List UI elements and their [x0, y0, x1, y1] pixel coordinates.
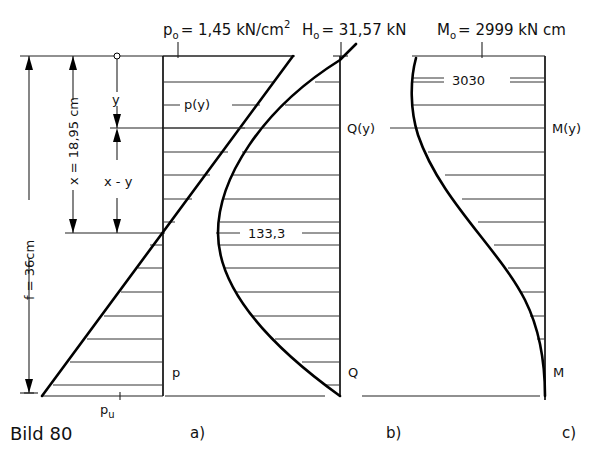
panel-c-label: c) [562, 424, 576, 442]
header-m0: Mo= 2999 kN cm [437, 21, 566, 41]
svg-text:Ho= 31,57 kN: Ho= 31,57 kN [302, 21, 406, 41]
dimension-x-minus-y: x - y [104, 174, 133, 189]
pu-label: pu [100, 402, 115, 420]
panel-c-moment [390, 56, 545, 400]
p-end-label: p [172, 365, 180, 380]
header-h0: Ho= 31,57 kN [302, 21, 406, 41]
q-end-label: Q [348, 365, 358, 380]
svg-text:Mo= 2999 kN cm: Mo= 2999 kN cm [437, 21, 566, 41]
panel-b-shear [165, 44, 540, 397]
svg-text:po= 1,45 kN/cm2: po= 1,45 kN/cm2 [163, 19, 290, 41]
m-end-label: M [553, 365, 564, 380]
dimension-f: f = 36cm [22, 240, 37, 300]
dimension-y: y [112, 92, 120, 107]
dimension-x: x = 18,95 cm [66, 97, 81, 185]
structural-diagram: po= 1,45 kN/cm2 Ho= 31,57 kN Mo= 2999 kN… [0, 0, 603, 458]
q-annotation: 133,3 [248, 226, 285, 241]
panel-b-label: b) [386, 424, 401, 442]
m-y-label: M(y) [552, 121, 581, 136]
header-p0: po= 1,45 kN/cm2 [163, 19, 290, 41]
panel-a-label: a) [190, 424, 205, 442]
p-y-label: p(y) [184, 97, 210, 112]
m-annotation: 3030 [452, 73, 485, 88]
q-curve [218, 44, 356, 396]
dimension-lines [20, 53, 295, 393]
figure-caption: Bild 80 [10, 423, 72, 444]
m-curve [412, 58, 545, 396]
q-y-label: Q(y) [347, 121, 375, 136]
